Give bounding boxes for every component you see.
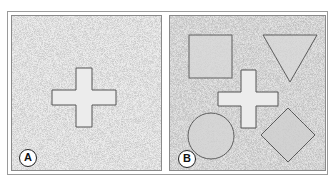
panel-label-a: A xyxy=(19,149,37,167)
noise-texture-b xyxy=(170,16,326,171)
noise-texture-a xyxy=(12,16,162,171)
panel-a: A xyxy=(11,15,162,171)
panel-label-b: B xyxy=(178,150,196,168)
panel-b: B xyxy=(169,15,326,171)
